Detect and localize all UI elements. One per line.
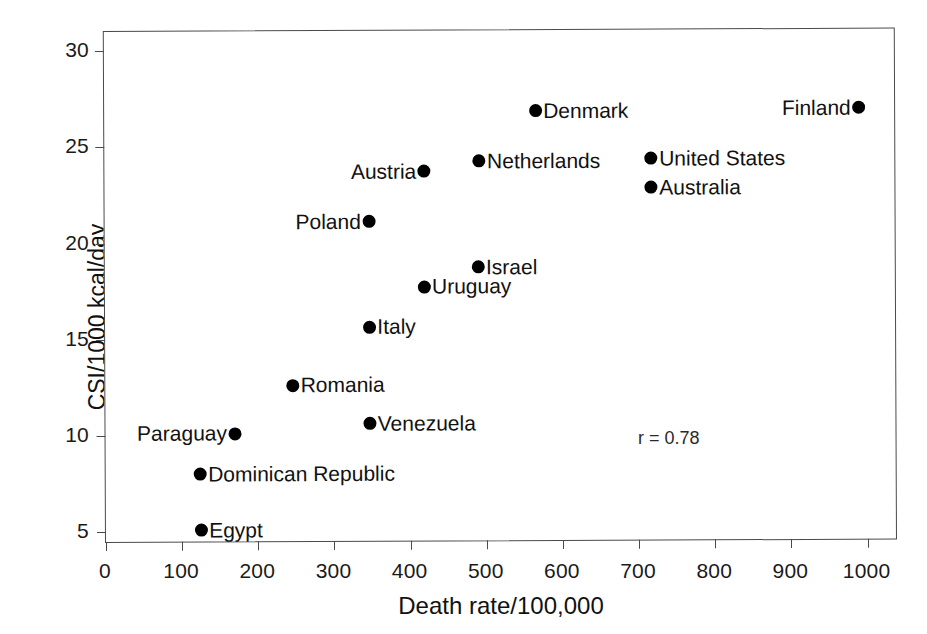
x-axis-tick-label: 700 xyxy=(620,559,656,583)
y-axis-tick xyxy=(97,532,106,533)
x-axis-tick-label: 1000 xyxy=(843,559,891,583)
y-axis-tick-label: 10 xyxy=(65,423,89,447)
y-axis-tick xyxy=(95,51,104,52)
x-axis-tick-label: 900 xyxy=(773,559,809,583)
x-axis-tick xyxy=(411,541,412,550)
data-point-label: Denmark xyxy=(543,99,628,123)
x-axis-tick-label: 500 xyxy=(468,559,504,583)
data-point[interactable] xyxy=(645,181,658,194)
data-point-label: Venezuela xyxy=(378,411,476,435)
data-point-label: Uruguay xyxy=(432,274,511,298)
y-axis-tick-label: 25 xyxy=(65,134,89,158)
data-point-label: Dominican Republic xyxy=(208,461,395,486)
data-point-label: United States xyxy=(659,146,785,171)
x-axis-tick-label: 0 xyxy=(99,559,111,583)
data-point[interactable] xyxy=(417,280,430,293)
y-axis-tick-label: 30 xyxy=(65,38,89,62)
data-point[interactable] xyxy=(529,104,542,117)
data-point[interactable] xyxy=(418,165,431,178)
x-axis-tick-label: 600 xyxy=(544,559,580,583)
x-axis-tick xyxy=(182,542,183,551)
data-point-label: Italy xyxy=(377,315,416,339)
y-axis-tick xyxy=(95,147,104,148)
x-axis-tick xyxy=(258,541,259,550)
data-point-label: Finland xyxy=(782,96,851,120)
data-point-label: Austria xyxy=(351,159,416,183)
data-point[interactable] xyxy=(363,321,376,334)
data-point-label: Paraguay xyxy=(137,422,227,446)
x-axis-tick xyxy=(639,540,640,549)
data-point[interactable] xyxy=(471,261,484,274)
data-point[interactable] xyxy=(362,215,375,228)
y-axis-tick-label: 20 xyxy=(65,231,89,255)
y-axis-tick-label: 5 xyxy=(77,519,89,543)
x-axis-tick xyxy=(487,540,488,549)
data-point[interactable] xyxy=(363,417,376,430)
x-axis-tick xyxy=(715,539,716,548)
y-axis-tick xyxy=(96,244,105,245)
data-point[interactable] xyxy=(195,524,208,537)
data-point[interactable] xyxy=(645,152,658,165)
scatter-plot-figure: CSI/1000 kcal/day DenmarkFinlandNetherla… xyxy=(0,0,927,634)
x-axis-tick xyxy=(106,542,107,551)
correlation-annotation: r = 0.78 xyxy=(638,428,700,449)
data-point-label: Netherlands xyxy=(487,149,600,173)
x-axis-tick xyxy=(791,539,792,548)
data-point[interactable] xyxy=(194,468,207,481)
x-axis-title: Death rate/100,000 xyxy=(105,592,897,620)
data-point-label: Australia xyxy=(659,175,741,199)
x-axis-tick-label: 300 xyxy=(316,559,352,583)
y-axis-tick-label: 15 xyxy=(65,327,89,351)
x-axis-tick-label: 400 xyxy=(392,559,428,583)
data-point-label: Egypt xyxy=(209,518,263,542)
data-point[interactable] xyxy=(286,379,299,392)
data-point-label: Romania xyxy=(301,373,385,397)
x-axis-tick xyxy=(868,539,869,548)
x-axis-tick xyxy=(334,541,335,550)
x-axis-tick-label: 800 xyxy=(696,559,732,583)
y-axis-tick xyxy=(97,436,106,437)
data-point[interactable] xyxy=(852,101,865,114)
data-point[interactable] xyxy=(472,155,485,168)
x-axis-tick-label: 200 xyxy=(239,559,275,583)
data-point[interactable] xyxy=(228,427,241,440)
y-axis-tick xyxy=(96,340,105,341)
x-axis-tick xyxy=(563,540,564,549)
x-axis-tick-label: 100 xyxy=(163,559,199,583)
data-point-label: Poland xyxy=(295,209,360,233)
plot-area: DenmarkFinlandNetherlandsUnited StatesAu… xyxy=(103,28,897,543)
